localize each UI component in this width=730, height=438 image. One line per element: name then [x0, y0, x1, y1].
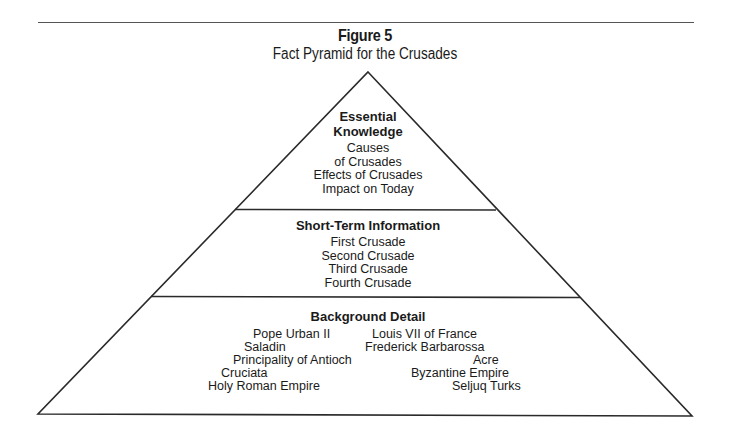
- tier-heading: Essential: [268, 109, 468, 124]
- tier-short-term-information: Short-Term Information First Crusade Sec…: [260, 218, 476, 290]
- background-item: Seljuq Turks: [452, 380, 521, 394]
- background-item: Holy Roman Empire: [208, 380, 320, 394]
- tier-item: Impact on Today: [268, 183, 468, 197]
- tier-heading-background-detail: Background Detail: [260, 309, 476, 324]
- tier-item: Third Crusade: [260, 263, 476, 277]
- tier-heading: Knowledge: [268, 124, 468, 139]
- tier-divider-lower: [151, 297, 580, 298]
- tier-item: Second Crusade: [260, 250, 476, 264]
- tier-essential-knowledge: Essential Knowledge Causes of Crusades E…: [268, 109, 468, 196]
- tier-item: Causes: [268, 142, 468, 156]
- tier-divider-upper: [235, 210, 496, 211]
- tier-item: of Crusades: [268, 156, 468, 170]
- tier-item: Fourth Crusade: [260, 277, 476, 291]
- tier-item: First Crusade: [260, 236, 476, 250]
- tier-item: Effects of Crusades: [268, 169, 468, 183]
- tier-heading: Short-Term Information: [260, 218, 476, 233]
- background-item: Frederick Barbarossa: [365, 341, 485, 355]
